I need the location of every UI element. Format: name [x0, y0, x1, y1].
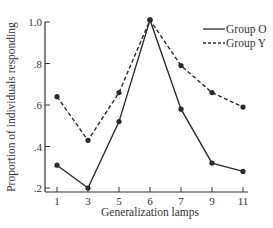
series-line-group-y	[57, 20, 243, 140]
x-ticks: 13567911	[54, 187, 248, 207]
y-tick-label: .8	[34, 58, 43, 70]
y-ticks: .2.4.6.81.0	[28, 16, 50, 194]
data-point-marker	[209, 161, 214, 166]
x-axis-title: Generalization lamps	[101, 206, 200, 219]
y-tick-label: .2	[34, 182, 42, 194]
data-point-marker	[116, 90, 121, 95]
data-point-marker	[85, 185, 90, 190]
series	[54, 17, 245, 190]
x-tick-label: 1	[54, 195, 60, 207]
y-tick-label: 1.0	[28, 16, 42, 28]
data-point-marker	[54, 94, 59, 99]
legend-label-group-o: Group O	[226, 23, 267, 36]
line-chart: .2.4.6.81.0 13567911 Generalization lamp…	[0, 0, 273, 228]
y-tick-label: .6	[34, 99, 43, 111]
legend: Group O Group Y	[203, 23, 267, 50]
data-point-marker	[147, 17, 152, 22]
axes	[45, 22, 248, 192]
data-point-marker	[178, 63, 183, 68]
data-point-marker	[178, 107, 183, 112]
data-point-marker	[116, 119, 121, 124]
data-point-marker	[209, 90, 214, 95]
y-tick-label: .4	[34, 141, 43, 153]
x-tick-label: 3	[85, 195, 91, 207]
data-point-marker	[54, 163, 59, 168]
x-tick-label: 11	[238, 195, 249, 207]
x-tick-label: 9	[209, 195, 215, 207]
legend-label-group-y: Group Y	[226, 37, 267, 50]
data-point-marker	[240, 169, 245, 174]
data-point-marker	[240, 105, 245, 110]
y-axis-title: Proportion of individuals responding	[5, 22, 18, 192]
data-point-marker	[85, 138, 90, 143]
series-line-group-o	[57, 20, 243, 188]
